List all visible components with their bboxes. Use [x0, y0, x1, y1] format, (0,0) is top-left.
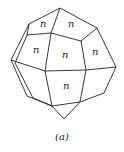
- face-label: n: [68, 18, 74, 29]
- face-label: n: [62, 49, 68, 60]
- left-double-edge: [15, 63, 52, 106]
- face-label: n: [33, 44, 39, 55]
- polyhedron-diagram: n n n n n n: [0, 0, 124, 152]
- figure-caption: (a): [0, 131, 124, 142]
- outline: [11, 8, 116, 119]
- face-label: n: [92, 46, 98, 57]
- face-label: n: [63, 80, 69, 91]
- face-label: n: [40, 18, 46, 29]
